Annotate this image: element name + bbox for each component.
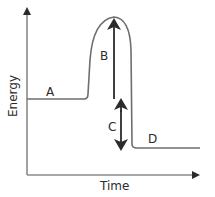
y-axis-label: Energy (6, 75, 20, 117)
x-axis-label: Time (99, 179, 129, 193)
label-c: C (108, 120, 116, 134)
label-a: A (46, 85, 55, 99)
energy-diagram: A B C D Energy Time (0, 0, 215, 197)
label-b: B (100, 49, 108, 63)
label-d: D (148, 132, 157, 146)
